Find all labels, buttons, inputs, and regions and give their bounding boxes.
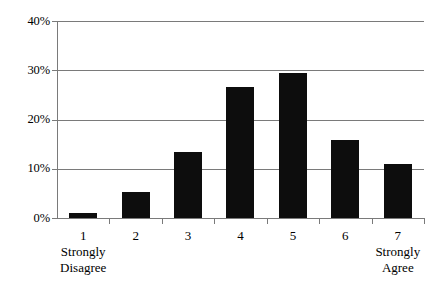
scale-anchor-high-line2: Agree [338,260,432,276]
y-axis-label-20: 20% [4,113,50,126]
x-axis-label-7: 7 [372,228,424,244]
x-axis-label-1: 1 [57,228,109,244]
bar-slot-1 [57,21,109,218]
scale-anchor-low: Strongly Disagree [23,244,143,275]
y-axis-label-0: 0% [4,212,50,225]
x-axis-tick-2 [162,218,163,224]
bar-4 [226,87,254,218]
x-axis-labels: 1 2 3 4 5 6 7 Strongly Disagree Strongly… [57,228,424,288]
x-axis-label-5: 5 [267,228,319,244]
x-axis-label-7-text: 7 [372,228,424,244]
y-axis-label-10: 10% [4,162,50,175]
y-axis-label-40: 40% [4,15,50,28]
bar-chart: 40% 30% 20% 10% 0% 1 2 3 4 5 [0,0,432,294]
bar-slot-2 [109,21,161,218]
bar-3 [174,152,202,218]
bar-slot-7 [372,21,424,218]
x-axis-label-4: 4 [214,228,266,244]
bar-series [57,21,424,218]
scale-anchor-low-line2: Disagree [23,260,143,276]
bar-slot-6 [319,21,371,218]
y-axis-label-30: 30% [4,64,50,77]
bar-slot-3 [162,21,214,218]
x-axis-label-3-text: 3 [162,228,214,244]
x-axis-label-2-text: 2 [109,228,161,244]
x-axis-tick-1 [109,218,110,224]
x-axis-label-1-text: 1 [57,228,109,244]
x-axis-tick-4 [267,218,268,224]
x-axis-tick-5 [319,218,320,224]
x-axis-label-4-text: 4 [214,228,266,244]
x-axis-label-6-text: 6 [319,228,371,244]
scale-anchor-high-line1: Strongly [338,244,432,260]
scale-anchor-high: Strongly Agree [338,244,432,275]
scale-anchor-low-line1: Strongly [23,244,143,260]
x-axis-line [57,218,425,219]
x-axis-label-6: 6 [319,228,371,244]
x-axis-label-2: 2 [109,228,161,244]
bar-1 [69,213,97,218]
x-axis-tick-3 [214,218,215,224]
bar-slot-4 [214,21,266,218]
x-axis-tick-6 [372,218,373,224]
bar-6 [331,140,359,218]
x-axis-label-3: 3 [162,228,214,244]
x-axis-tick-7 [424,218,425,224]
bar-slot-5 [267,21,319,218]
bar-7 [384,164,412,218]
bar-2 [122,192,150,218]
x-axis-label-5-text: 5 [267,228,319,244]
bar-5 [279,73,307,218]
